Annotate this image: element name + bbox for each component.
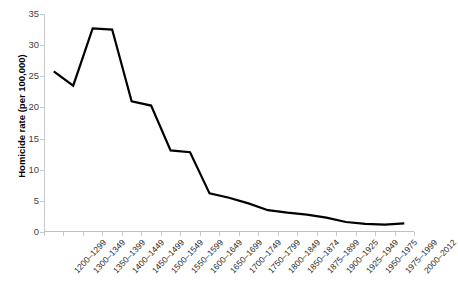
x-tick-mark	[219, 232, 220, 236]
x-axis-labels: 1200–12991300–13491350–13991400–14491450…	[44, 238, 414, 294]
x-tick-mark	[336, 232, 337, 236]
x-tick-mark	[258, 232, 259, 236]
y-axis-title: Homicide rate (per 100,000)	[14, 0, 30, 232]
x-tick-mark	[278, 232, 279, 236]
plot-area: 05101520253035	[44, 14, 414, 232]
x-tick-mark	[375, 232, 376, 236]
x-tick-mark	[122, 232, 123, 236]
x-tick-mark	[63, 232, 64, 236]
y-tick-label: 0	[34, 227, 39, 237]
x-tick-mark	[414, 232, 415, 236]
y-tick-label: 30	[28, 40, 39, 50]
y-tick-label: 15	[28, 134, 39, 144]
x-tick-mark	[317, 232, 318, 236]
y-tick-label: 5	[34, 196, 39, 206]
x-tick-mark	[44, 232, 45, 236]
x-tick-mark	[356, 232, 357, 236]
x-tick-mark	[161, 232, 162, 236]
x-tick-mark	[395, 232, 396, 236]
y-tick-label: 25	[28, 72, 39, 82]
x-tick-mark	[102, 232, 103, 236]
y-tick-label: 20	[28, 103, 39, 113]
x-tick-mark	[180, 232, 181, 236]
x-tick-mark	[141, 232, 142, 236]
y-tick-label: 10	[28, 165, 39, 175]
x-tick-mark	[239, 232, 240, 236]
x-tick-mark	[83, 232, 84, 236]
x-tick-mark	[200, 232, 201, 236]
y-tick-label: 35	[28, 9, 39, 19]
x-tick-mark	[297, 232, 298, 236]
series-line	[44, 14, 414, 232]
